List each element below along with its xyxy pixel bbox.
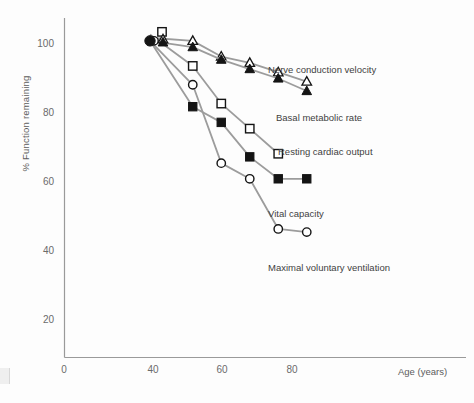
data-point-4-1 [189,81,197,89]
data-point-2-2 [217,99,225,107]
figure-canvas: % Function remaining Age (years) 100 80 … [0,0,474,403]
series-label-resting-cardiac-output: Resting cardiac output [278,146,373,157]
data-point-2-1 [189,62,197,70]
series-label-vital-capacity: Vital capacity [268,208,324,219]
data-point-4-5 [303,228,311,236]
axis-lines [65,18,467,358]
data-point-4-4 [274,225,282,233]
origin-marker-cluster [145,28,168,46]
data-point-3-4 [274,175,282,183]
series-label-basal-metabolic-rate: Basal metabolic rate [276,112,362,123]
data-point-3-2 [217,118,225,126]
series-layer [145,28,312,237]
data-point-4-2 [217,159,225,167]
series-label-nerve-conduction-velocity: Nerve conduction velocity [268,64,376,75]
data-point-3-1 [189,103,197,111]
data-point-4-3 [246,175,254,183]
data-point-2-3 [246,124,254,132]
chart-plot-area [0,0,474,403]
origin-open-square [158,28,166,36]
origin-filled-circle [145,36,155,46]
data-point-3-5 [303,175,311,183]
series-label-maximal-voluntary-ventilation: Maximal voluntary ventilation [268,262,390,273]
data-point-3-3 [246,153,254,161]
